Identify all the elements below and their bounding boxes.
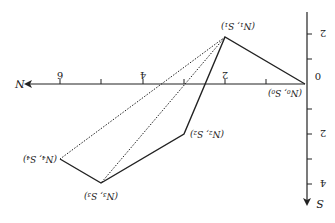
n-axis-ticks bbox=[60, 79, 266, 84]
origin-label: 0 bbox=[315, 71, 321, 82]
s-tick-4: 4 bbox=[320, 178, 326, 189]
s-tick-neg2: 2 bbox=[320, 28, 326, 39]
dotted-p1-p3 bbox=[101, 37, 225, 183]
point-label-0: (N₀, S₀) bbox=[268, 88, 302, 98]
s-axis-label: S bbox=[316, 197, 324, 210]
n-tick-2: 2 bbox=[222, 70, 228, 81]
n-axis-label: N bbox=[15, 77, 26, 90]
point-label-1: (N₁, S₁) bbox=[221, 21, 255, 31]
n-tick-4: 4 bbox=[140, 70, 146, 81]
n-tick-6: 6 bbox=[57, 70, 63, 81]
point-label-3: (N₃, S₃) bbox=[84, 191, 118, 201]
point-label-4: (N₄, S₄) bbox=[23, 154, 57, 164]
trajectory-diagram: 2 4 6 2 2 4 0 N S (N₀, S₀) (N₁, S₁) (N₂,… bbox=[0, 0, 335, 223]
trajectory-path bbox=[60, 37, 305, 183]
s-axis-ticks bbox=[307, 34, 312, 184]
s-tick-2: 2 bbox=[320, 128, 326, 139]
dotted-p1-p4 bbox=[60, 37, 225, 159]
point-label-2: (N₂, S₂) bbox=[190, 129, 224, 139]
